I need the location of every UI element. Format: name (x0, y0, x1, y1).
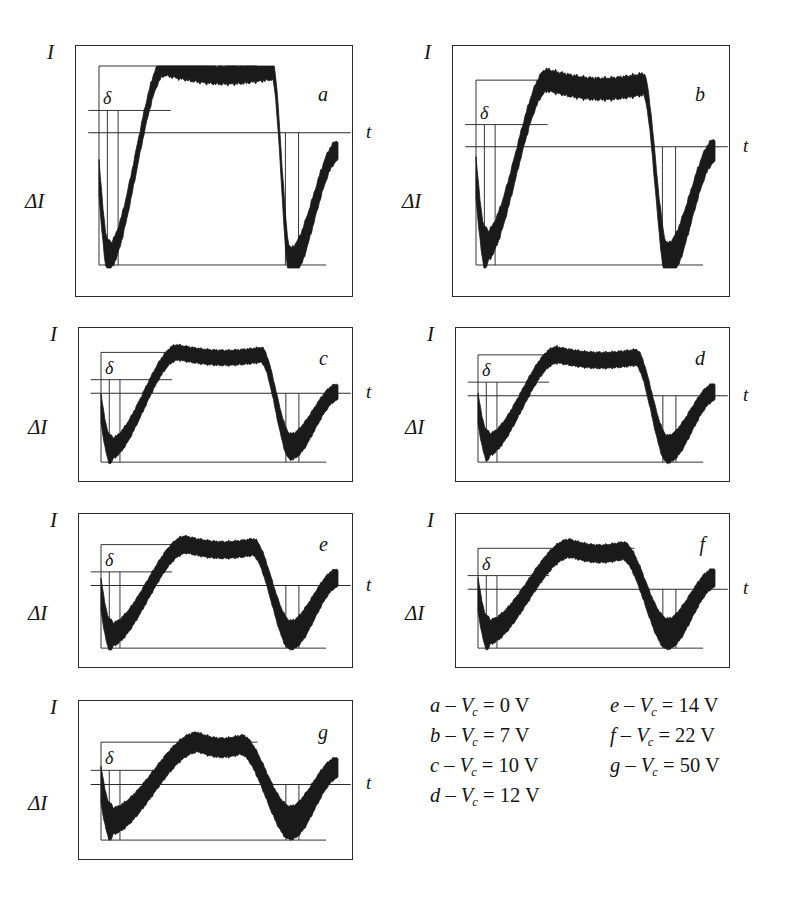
panel-letter-a: a (318, 84, 328, 104)
legend-unit: V (510, 724, 530, 746)
waveform-svg-g (78, 700, 353, 860)
legend-letter: b (430, 724, 440, 746)
axis-label-deltaI-f: ΔI (405, 603, 424, 624)
axis-label-deltaI-d: ΔI (405, 417, 424, 438)
legend-unit: V (700, 754, 720, 776)
legend-column-2: e – Vc = 14 Vf – Vc = 22 Vg – Vc = 50 V (610, 690, 720, 780)
legend-letter: g (610, 754, 620, 776)
legend-dash: – (619, 694, 640, 716)
oscillogram-panel-c: cδ (78, 327, 353, 482)
waveform-band-f (478, 539, 715, 651)
delta-label-a: δ (103, 89, 111, 107)
panel-letter-e: e (319, 534, 328, 554)
legend-item-e: e – Vc = 14 V (610, 690, 720, 720)
legend-item-a: a – Vc = 0 V (430, 690, 540, 720)
axis-label-I-e: I (50, 510, 57, 531)
legend-letter: a (430, 694, 440, 716)
waveform-band-a (99, 66, 338, 268)
legend-value: 22 (675, 724, 696, 746)
legend-item-g: g – Vc = 50 V (610, 750, 720, 780)
legend-value: 14 (679, 694, 700, 716)
waveform-band-d (478, 345, 715, 464)
legend-equals: = (477, 754, 499, 776)
oscillogram-panel-d: dδ (455, 327, 730, 482)
legend-symbol: V (636, 724, 649, 746)
legend-unit: V (696, 724, 716, 746)
legend-unit: V (520, 784, 540, 806)
panel-letter-b: b (695, 84, 705, 104)
waveform-svg-e (78, 513, 353, 668)
delta-label-b: δ (480, 104, 488, 122)
delta-label-f: δ (482, 555, 490, 573)
axis-label-I-c: I (50, 324, 57, 345)
axis-label-t-f: t (743, 578, 748, 597)
waveform-svg-d (455, 327, 730, 482)
legend-equals: = (658, 754, 680, 776)
delta-label-g: δ (105, 749, 113, 767)
oscillogram-panel-b: bδ (452, 45, 730, 297)
legend-value: 12 (500, 784, 521, 806)
axis-label-I-d: I (427, 324, 434, 345)
legend-dash: – (616, 724, 637, 746)
waveform-svg-b (452, 45, 730, 297)
panel-letter-d: d (695, 348, 705, 368)
panel-letter-c: c (319, 348, 328, 368)
axis-label-I-b: I (424, 42, 431, 63)
delta-label-e: δ (105, 551, 113, 569)
legend-dash: – (440, 784, 461, 806)
legend-item-c: c – Vc = 10 V (430, 750, 540, 780)
legend-equals: = (657, 694, 679, 716)
legend-unit: V (519, 754, 539, 776)
legend-letter: d (430, 784, 440, 806)
axis-label-I-f: I (427, 510, 434, 531)
axis-label-t-g: t (366, 773, 371, 792)
legend-letter: e (610, 694, 619, 716)
waveform-svg-a (75, 45, 353, 297)
legend-item-b: b – Vc = 7 V (430, 720, 540, 750)
axis-label-I-a: I (47, 42, 54, 63)
waveform-svg-f (455, 513, 730, 668)
legend-equals: = (478, 724, 500, 746)
legend-dash: – (440, 694, 461, 716)
legend-item-d: d – Vc = 12 V (430, 780, 540, 810)
axis-label-I-g: I (50, 697, 57, 718)
panel-letter-g: g (318, 722, 328, 742)
axis-label-deltaI-e: ΔI (28, 603, 47, 624)
legend-value: 10 (499, 754, 520, 776)
delta-label-c: δ (105, 359, 113, 377)
axis-label-t-d: t (743, 385, 748, 404)
oscillogram-panel-f: fδ (455, 513, 730, 668)
axis-label-t-a: t (366, 122, 371, 141)
axis-label-t-e: t (366, 575, 371, 594)
figure-legend: a – Vc = 0 Vb – Vc = 7 Vc – Vc = 10 Vd –… (430, 690, 800, 830)
legend-value: 7 (500, 724, 510, 746)
waveform-band-b (476, 68, 715, 268)
waveform-band-c (101, 344, 338, 464)
legend-dash: – (620, 754, 641, 776)
axis-label-deltaI-c: ΔI (28, 417, 47, 438)
legend-letter: c (430, 754, 439, 776)
oscillogram-panel-e: eδ (78, 513, 353, 668)
axis-label-deltaI-g: ΔI (28, 793, 47, 814)
oscillogram-panel-a: aδ (75, 45, 353, 297)
axis-label-t-b: t (743, 136, 748, 155)
legend-dash: – (440, 724, 461, 746)
legend-unit: V (699, 694, 719, 716)
axis-label-deltaI-a: ΔI (25, 191, 44, 212)
legend-unit: V (510, 694, 530, 716)
legend-equals: = (478, 694, 500, 716)
legend-dash: – (439, 754, 460, 776)
legend-equals: = (478, 784, 500, 806)
legend-item-f: f – Vc = 22 V (610, 720, 720, 750)
axis-label-deltaI-b: ΔI (402, 191, 421, 212)
waveform-svg-c (78, 327, 353, 482)
legend-equals: = (653, 724, 675, 746)
waveform-band-g (101, 732, 338, 841)
legend-value: 0 (500, 694, 510, 716)
panel-letter-f: f (699, 534, 705, 554)
delta-label-d: δ (482, 361, 490, 379)
legend-column-1: a – Vc = 0 Vb – Vc = 7 Vc – Vc = 10 Vd –… (430, 690, 540, 810)
waveform-band-e (101, 535, 338, 650)
axis-label-t-c: t (366, 382, 371, 401)
legend-value: 50 (680, 754, 701, 776)
